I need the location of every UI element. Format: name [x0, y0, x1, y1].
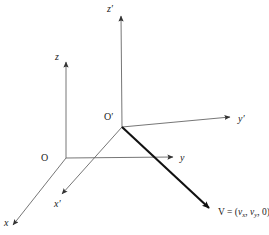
vector-label-sep2: , 0) — [257, 207, 269, 218]
figure-root: z′ z O′ O y′ y x′ x V = (vx, vy, 0) — [0, 0, 269, 235]
label-z: z — [54, 51, 59, 62]
frame-translated — [62, 16, 230, 194]
label-o: O — [41, 152, 48, 163]
axis-y-prime-line — [122, 117, 230, 127]
vector-label-prefix: V = ( — [218, 207, 238, 218]
coordinate-frames-diagram: z′ z O′ O y′ y x′ x V = (vx, vy, 0) — [0, 0, 269, 235]
vector-v-line — [122, 127, 209, 208]
axis-y-line — [66, 157, 173, 158]
label-x: x — [3, 217, 9, 228]
label-y-prime: y′ — [237, 113, 245, 124]
axis-z-prime-line — [121, 16, 122, 127]
axis-x-line — [13, 158, 66, 225]
vector-label: V = (vx, vy, 0) — [218, 207, 269, 218]
label-x-prime: x′ — [53, 198, 61, 209]
label-z-prime: z′ — [106, 3, 114, 14]
label-o-prime: O′ — [104, 111, 113, 122]
axis-x-prime-line — [62, 127, 122, 194]
frame-original — [13, 62, 173, 225]
label-y: y — [179, 152, 185, 163]
